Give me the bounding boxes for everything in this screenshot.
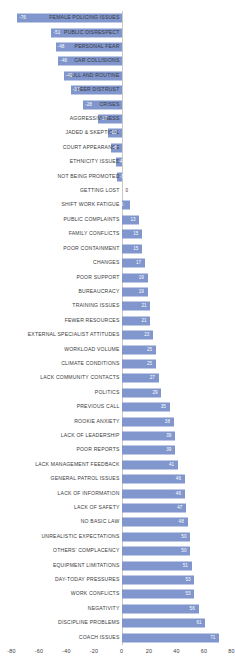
value-label: 46 [176, 477, 181, 482]
bar-row: WORKLOAD VOLUME25 [0, 342, 235, 356]
bar-row: CRISES-28 [0, 97, 235, 111]
bar-row: JADED & SKEPTICAL-10 [0, 126, 235, 140]
category-label: POLITICS [95, 390, 120, 395]
value-label: 39 [166, 448, 171, 453]
value-label: -17 [100, 117, 107, 122]
bar-row: FAMILY CONFLICTS15 [0, 227, 235, 241]
category-label: WORKLOAD VOLUME [64, 347, 119, 352]
x-axis: -80-60-40-20020406080 [0, 648, 235, 662]
value-label: 38 [165, 419, 170, 424]
value-label: 53 [185, 592, 190, 597]
bar [122, 590, 195, 599]
bar-row: PUBLIC COMPLAINTS13 [0, 213, 235, 227]
category-label: ROOKIE ANXIETY [74, 419, 119, 424]
category-label: PREVIOUS CALL [77, 405, 120, 410]
bar-row: LACK OF SAFETY47 [0, 501, 235, 515]
category-label: DISCIPLINE PROBLEMS [58, 621, 119, 626]
category-label: LACK MANAGEMENT FEEDBACK [35, 462, 119, 467]
bar-row: LACK OF LEADERSHIP39 [0, 429, 235, 443]
x-tick-label: 80 [228, 648, 234, 654]
value-label: -76 [19, 16, 26, 21]
category-label: CAR COLLISIONS [74, 59, 119, 64]
value-label: -4 [118, 160, 122, 165]
bar [122, 576, 195, 585]
category-label: PUBLIC COMPLAINTS [64, 217, 120, 222]
bar-row: SHIFT WORK FATIGUE6 [0, 198, 235, 212]
bar-row: UNREALISTIC EXPECTATIONS50 [0, 530, 235, 544]
category-label: POOR CONTAINMENT [63, 246, 119, 251]
value-label: 25 [147, 347, 152, 352]
bar-row: POOR SUPPORT19 [0, 270, 235, 284]
value-label: 21 [141, 318, 146, 323]
value-label: 19 [139, 275, 144, 280]
value-label: 15 [133, 246, 138, 251]
category-label: GETTING LOST [80, 189, 120, 194]
bar [122, 259, 145, 268]
value-label: -28 [85, 102, 92, 107]
bar-row: COURT APPEARANCE-8 [0, 141, 235, 155]
x-tick-label: 60 [201, 648, 207, 654]
x-tick-label: 20 [146, 648, 152, 654]
category-label: DAY-TODAY PRESSURES [55, 578, 120, 583]
x-tick-label: 0 [120, 648, 123, 654]
value-label: 46 [176, 491, 181, 496]
value-label: 6 [121, 203, 124, 208]
category-label: LACK OF LEADERSHIP [61, 433, 120, 438]
value-label: 21 [141, 304, 146, 309]
value-label: 50 [181, 549, 186, 554]
category-label: LULL AND ROUTINE [68, 73, 119, 78]
category-label: AGGRESSIVENESS [70, 117, 120, 122]
bar-row: POLITICS29 [0, 386, 235, 400]
category-label: FAMILY CONFLICTS [69, 232, 120, 237]
category-label: UNREALISTIC EXPECTATIONS [41, 534, 119, 539]
value-label: -46 [60, 59, 67, 64]
value-label: -3 [119, 174, 123, 179]
value-label: 19 [139, 290, 144, 295]
category-label: COURT APPEARANCE [63, 145, 120, 150]
value-label: 50 [181, 535, 186, 540]
bar-row: GETTING LOST0 [0, 184, 235, 198]
bar-row: CHANGES17 [0, 256, 235, 270]
value-label: 51 [183, 563, 188, 568]
bar-row: NEGATIVITY56 [0, 602, 235, 616]
bar-row: AGGRESSIVENESS-17 [0, 112, 235, 126]
bar-row: TRAINING ISSUES21 [0, 299, 235, 313]
value-label: -10 [110, 131, 117, 136]
bar-row: PEER DISTRUST-37 [0, 83, 235, 97]
bar-row: OTHERS' COMPLACENCY50 [0, 544, 235, 558]
value-label: 39 [166, 434, 171, 439]
bar-row: POOR CONTAINMENT15 [0, 242, 235, 256]
category-label: ETHNICITY ISSUES [70, 160, 120, 165]
category-label: CHANGES [93, 261, 119, 266]
category-label: TRAINING ISSUES [72, 304, 119, 309]
bar-row: BUREAUCRACY19 [0, 285, 235, 299]
x-tick-label: -60 [35, 648, 43, 654]
bar-row: CAR COLLISIONS-46 [0, 54, 235, 68]
value-label: 27 [150, 376, 155, 381]
x-tick-label: -20 [90, 648, 98, 654]
category-label: SHIFT WORK FATIGUE [62, 203, 120, 208]
plot-area: FEMALE POLICING ISSUES-76PUBLIC DISRESPE… [0, 11, 235, 645]
value-label: 23 [144, 333, 149, 338]
bar-row: DAY-TODAY PRESSURES53 [0, 573, 235, 587]
value-label: 61 [196, 621, 201, 626]
bar-row: FEMALE POLICING ISSUES-76 [0, 11, 235, 25]
bar-row: CLIMATE CONDITIONS25 [0, 357, 235, 371]
bar-row: NOT BEING PROMOTED-3 [0, 169, 235, 183]
bar [122, 244, 143, 253]
value-label: 56 [190, 607, 195, 612]
x-tick-label: 40 [173, 648, 179, 654]
category-label: NEGATIVITY [88, 606, 120, 611]
value-label: 53 [185, 578, 190, 583]
bar-row: LACK OF INFORMATION46 [0, 486, 235, 500]
bar [122, 633, 220, 642]
category-label: BUREAUCRACY [78, 289, 119, 294]
bar-row: ETHNICITY ISSUES-4 [0, 155, 235, 169]
bar-row: EXTERNAL SPECIALIST ATTITUDES23 [0, 328, 235, 342]
bar-row: PUBLIC DISRESPECT-51 [0, 25, 235, 39]
category-label: LACK OF INFORMATION [58, 491, 120, 496]
bar-row: ROOKIE ANXIETY38 [0, 414, 235, 428]
x-tick-label: -40 [62, 648, 70, 654]
category-label: NOT BEING PROMOTED [57, 174, 119, 179]
x-tick-label: -80 [7, 648, 15, 654]
